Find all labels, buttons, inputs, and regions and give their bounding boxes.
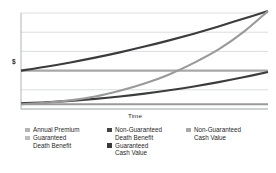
legend-column-1: Annual PremiumGuaranteed Death Benefit bbox=[25, 126, 107, 150]
chart-legend: Annual PremiumGuaranteed Death Benefit N… bbox=[0, 126, 276, 173]
plot-area: $ Time bbox=[0, 0, 276, 124]
legend-item-label: Non-Guaranteed Cash Value bbox=[194, 126, 241, 141]
legend-item-label: Annual Premium bbox=[33, 126, 80, 134]
legend-swatch-icon bbox=[25, 136, 30, 141]
chart-svg bbox=[0, 0, 276, 124]
legend-item-label: Guaranteed Death Benefit bbox=[33, 134, 71, 149]
legend-swatch-icon bbox=[107, 143, 112, 148]
legend-column-2: Non-Guaranteed Death BenefitGuaranteed C… bbox=[107, 126, 187, 157]
legend-item-label: Non-Guaranteed Death Benefit bbox=[115, 126, 162, 141]
legend-swatch-icon bbox=[25, 128, 30, 133]
legend-item[interactable]: Non-Guaranteed Death Benefit bbox=[107, 126, 187, 141]
series-line-4 bbox=[21, 11, 268, 104]
legend-column-3: Non-Guaranteed Cash Value bbox=[186, 126, 274, 142]
legend-item[interactable]: Guaranteed Death Benefit bbox=[25, 134, 107, 149]
y-axis-label: $ bbox=[12, 58, 16, 65]
legend-item[interactable]: Guaranteed Cash Value bbox=[107, 142, 187, 157]
series-line-3 bbox=[21, 72, 268, 103]
legend-item[interactable]: Non-Guaranteed Cash Value bbox=[186, 126, 274, 141]
legend-swatch-icon bbox=[186, 128, 191, 133]
legend-item[interactable]: Annual Premium bbox=[25, 126, 107, 134]
legend-swatch-icon bbox=[107, 128, 112, 133]
series-lines bbox=[21, 11, 268, 104]
chart-container: $ Time Annual PremiumGuaranteed Death Be… bbox=[0, 0, 276, 173]
legend-item-label: Guaranteed Cash Value bbox=[115, 142, 148, 157]
x-axis-label: Time bbox=[128, 112, 142, 119]
